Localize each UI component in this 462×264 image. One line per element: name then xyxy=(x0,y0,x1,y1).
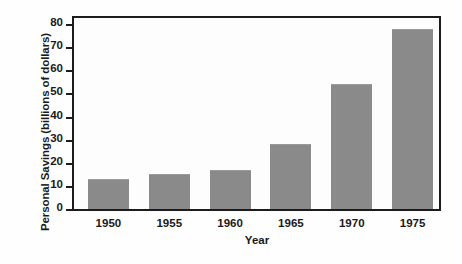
y-tick-label: 70 xyxy=(50,39,63,51)
y-tick-mark xyxy=(66,24,72,26)
y-tick-30: 30 xyxy=(0,140,72,141)
y-tick-label: 40 xyxy=(50,109,63,121)
y-tick-label: 50 xyxy=(50,85,63,97)
y-tick-label: 80 xyxy=(50,16,63,28)
plot-area xyxy=(74,18,439,209)
y-tick-60: 60 xyxy=(0,70,72,71)
x-tick-label: 1960 xyxy=(200,217,260,229)
bar-1950 xyxy=(88,179,129,209)
bar-1970 xyxy=(331,84,372,209)
x-tick-label: 1955 xyxy=(139,217,199,229)
y-tick-mark xyxy=(66,209,72,211)
y-tick-label: 30 xyxy=(50,132,63,144)
x-axis-title: Year xyxy=(72,234,442,246)
x-tick-label: 1970 xyxy=(322,217,382,229)
y-tick-0: 0 xyxy=(0,209,72,210)
bar-1975 xyxy=(392,29,433,209)
y-tick-mark xyxy=(66,163,72,165)
bar-1955 xyxy=(149,174,190,209)
y-tick-mark xyxy=(66,186,72,188)
bar-chart-figure: Personal Savings (billions of dollars) 0… xyxy=(0,0,462,264)
y-tick-20: 20 xyxy=(0,163,72,164)
y-tick-mark xyxy=(66,70,72,72)
y-tick-mark xyxy=(66,47,72,49)
y-tick-mark xyxy=(66,140,72,142)
y-tick-label: 60 xyxy=(50,62,63,74)
x-tick-label: 1950 xyxy=(78,217,138,229)
y-tick-label: 10 xyxy=(50,178,63,190)
x-tick-label: 1965 xyxy=(261,217,321,229)
y-tick-10: 10 xyxy=(0,186,72,187)
y-tick-label: 20 xyxy=(50,155,63,167)
y-tick-40: 40 xyxy=(0,117,72,118)
x-tick-label: 1975 xyxy=(383,217,443,229)
y-tick-70: 70 xyxy=(0,47,72,48)
bar-1960 xyxy=(210,170,251,209)
y-tick-label: 0 xyxy=(57,201,63,213)
bar-1965 xyxy=(270,144,311,209)
y-tick-mark xyxy=(66,117,72,119)
y-tick-50: 50 xyxy=(0,93,72,94)
y-tick-80: 80 xyxy=(0,24,72,25)
y-tick-mark xyxy=(66,93,72,95)
